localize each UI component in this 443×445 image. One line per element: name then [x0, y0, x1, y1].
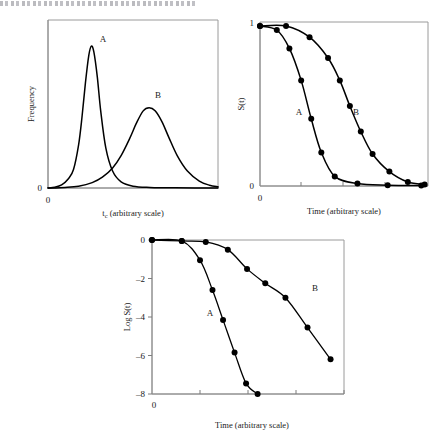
log-survival-curve-label-a: A	[207, 308, 214, 318]
data-point-marker	[255, 391, 261, 397]
data-point-marker	[274, 27, 280, 33]
data-point-marker	[257, 23, 263, 29]
frequency-x-axis-title: tc (arbitrary scale)	[102, 208, 164, 219]
data-point-marker	[225, 247, 231, 253]
log-survival-x-tick-0: 0	[152, 400, 157, 410]
page-header-smudge	[0, 1, 196, 6]
data-point-marker	[385, 182, 391, 188]
survival-y-tick-1: 1	[250, 18, 255, 28]
survival-axes	[260, 22, 428, 186]
data-point-marker	[370, 151, 376, 157]
data-point-marker	[262, 280, 268, 286]
data-point-marker	[337, 77, 343, 83]
data-point-marker	[358, 129, 364, 135]
data-point-marker	[354, 181, 360, 187]
data-point-marker	[332, 173, 338, 179]
survival-x-axis-title: Time (arbitrary scale)	[307, 206, 381, 216]
data-point-marker	[298, 77, 304, 83]
survival-curve-label-b: B	[353, 107, 359, 117]
data-point-marker	[220, 317, 226, 323]
data-point-marker	[307, 34, 313, 40]
frequency-y-axis-title: Frequency	[26, 85, 36, 122]
data-point-marker	[325, 55, 331, 61]
survival-frame	[260, 22, 428, 186]
data-point-marker	[328, 356, 334, 362]
frequency-frame	[48, 20, 218, 188]
survival-y-axis-title: S(t)	[236, 97, 246, 110]
curve-a-log-survival-markers	[149, 237, 261, 397]
data-point-marker	[286, 45, 292, 51]
frequency-curve-label-a: A	[100, 34, 107, 44]
curve-a-survival	[260, 26, 421, 186]
log-survival-ticks	[148, 240, 344, 394]
log-survival-y-tick-0: 0	[141, 235, 146, 245]
data-point-marker	[283, 23, 289, 29]
curve-b-log-survival-markers	[149, 237, 334, 362]
survival-x-tick-0: 0	[258, 193, 263, 203]
frequency-x-tick-0: 0	[46, 195, 51, 205]
log-survival-y-axis-title: Log S(t)	[122, 303, 132, 332]
log-survival-y-tick-minus6: –6	[135, 351, 146, 361]
data-point-marker	[232, 350, 238, 356]
frequency-chart-svg: 0 0 A B Frequency tc (arbitrary scale)	[22, 16, 222, 216]
frequency-curves	[48, 46, 218, 188]
log-survival-chart-svg: 0 –2 –4 –6 –8 0 A B Log S(t) Time (arbit…	[112, 232, 350, 442]
log-survival-y-tick-minus8: –8	[135, 389, 146, 399]
data-point-marker	[244, 266, 250, 272]
survival-y-tick-0: 0	[250, 181, 255, 191]
frequency-axes	[48, 20, 218, 188]
frequency-y-tick-0: 0	[38, 183, 43, 193]
figure-page: 0 0 A B Frequency tc (arbitrary scale)	[0, 0, 443, 445]
curve-b-survival-markers	[257, 23, 428, 187]
survival-function-panel: 1 0 0 A B S(t) Time (arbitrary scale)	[230, 16, 436, 216]
frequency-distribution-panel: 0 0 A B Frequency tc (arbitrary scale)	[22, 16, 222, 216]
survival-chart-svg: 1 0 0 A B S(t) Time (arbitrary scale)	[230, 16, 436, 216]
log-survival-curve-label-b: B	[312, 283, 318, 293]
data-point-marker	[209, 287, 215, 293]
curve-a-log-survival	[152, 239, 258, 394]
data-point-marker	[282, 295, 288, 301]
log-survival-y-tick-minus4: –4	[135, 312, 146, 322]
data-point-marker	[305, 325, 311, 331]
data-point-marker	[308, 116, 314, 122]
data-point-marker	[179, 238, 185, 244]
data-point-marker	[386, 169, 392, 175]
survival-curve-label-a: A	[296, 107, 303, 117]
log-survival-axes	[152, 240, 344, 394]
data-point-marker	[203, 239, 209, 245]
log-survival-y-tick-minus2: –2	[135, 274, 145, 284]
curve-b-survival	[260, 25, 425, 184]
log-survival-frame	[152, 240, 344, 394]
curve-a-frequency	[48, 46, 218, 188]
survival-curves	[260, 25, 425, 185]
log-survival-curves	[152, 239, 331, 394]
log-survival-panel: 0 –2 –4 –6 –8 0 A B Log S(t) Time (arbit…	[112, 232, 350, 442]
frequency-curve-label-b: B	[155, 90, 161, 100]
data-point-marker	[347, 103, 353, 109]
curve-b-frequency	[48, 108, 218, 188]
curve-b-log-survival	[152, 240, 331, 359]
data-point-marker	[197, 257, 203, 263]
curve-a-survival-markers	[257, 23, 424, 189]
data-point-marker	[405, 179, 411, 185]
data-point-marker	[422, 181, 428, 187]
data-point-marker	[149, 237, 155, 243]
data-point-marker	[318, 149, 324, 155]
data-point-marker	[243, 380, 249, 386]
log-survival-x-axis-title: Time (arbitrary scale)	[215, 420, 289, 430]
